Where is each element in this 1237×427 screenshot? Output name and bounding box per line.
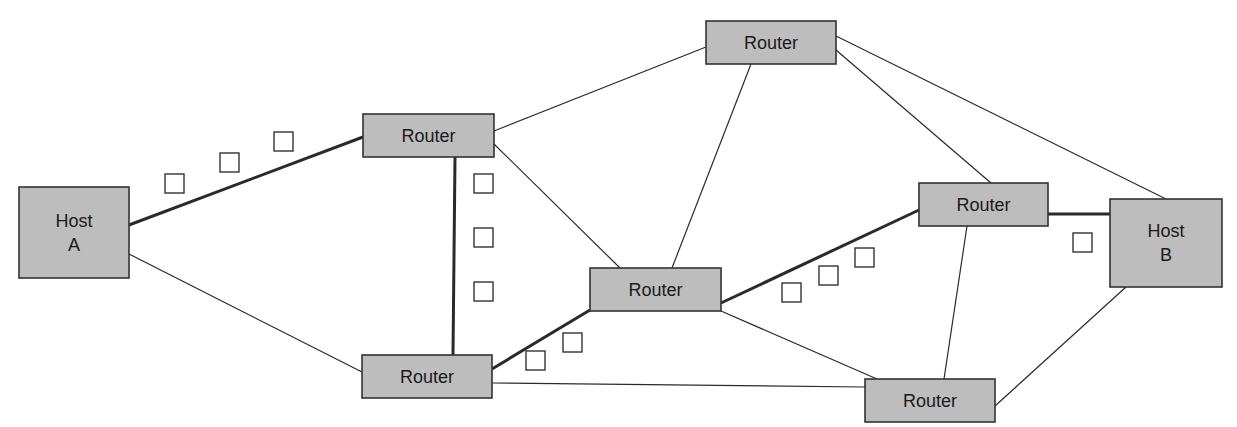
node-label: Router	[628, 280, 682, 300]
node-label: Host	[55, 211, 92, 231]
node-label: Router	[903, 391, 957, 411]
node-label: Router	[401, 126, 455, 146]
router-node-r4: Router	[590, 268, 721, 311]
link-hostB-r6	[995, 287, 1126, 406]
router-node-r3: Router	[706, 21, 836, 64]
packet-icon	[819, 266, 838, 285]
node-label: Host	[1147, 221, 1184, 241]
link-r2-r6	[492, 383, 865, 387]
network-diagram: HostARouterRouterRouterRouterRouterRoute…	[0, 0, 1237, 427]
packet-icon	[165, 174, 184, 193]
link-hostA-r1	[129, 137, 363, 225]
router-node-r5: Router	[919, 183, 1048, 226]
packet-icon	[563, 333, 582, 352]
packet-icon	[220, 153, 239, 172]
node-label: A	[68, 235, 80, 255]
link-r3-r4	[672, 64, 751, 268]
link-r1-r3	[494, 47, 706, 131]
link-r4-r6	[721, 311, 877, 379]
link-r5-r6	[944, 226, 967, 379]
link-r1-r4	[494, 144, 620, 268]
link-r1-r2	[453, 157, 455, 355]
router-node-r1: Router	[363, 114, 494, 157]
router-node-r2: Router	[362, 355, 492, 398]
link-r3-hostB	[836, 36, 1166, 199]
packet-icon	[526, 351, 545, 370]
packet-icon	[474, 228, 493, 247]
packet-icon	[1073, 233, 1092, 252]
link-hostA-r2	[129, 254, 362, 372]
link-r4-r5	[721, 210, 919, 303]
packets-layer	[165, 132, 1092, 370]
packet-icon	[855, 248, 874, 267]
host-node-hostB: HostB	[1110, 199, 1222, 287]
packet-icon	[474, 174, 493, 193]
packet-icon	[274, 132, 293, 151]
packet-icon	[474, 282, 493, 301]
link-r3-r5	[836, 50, 991, 183]
router-node-r6: Router	[865, 379, 995, 422]
host-node-hostA: HostA	[19, 187, 129, 278]
node-label: B	[1160, 245, 1172, 265]
node-label: Router	[956, 195, 1010, 215]
packet-icon	[782, 283, 801, 302]
node-label: Router	[400, 367, 454, 387]
node-label: Router	[744, 33, 798, 53]
